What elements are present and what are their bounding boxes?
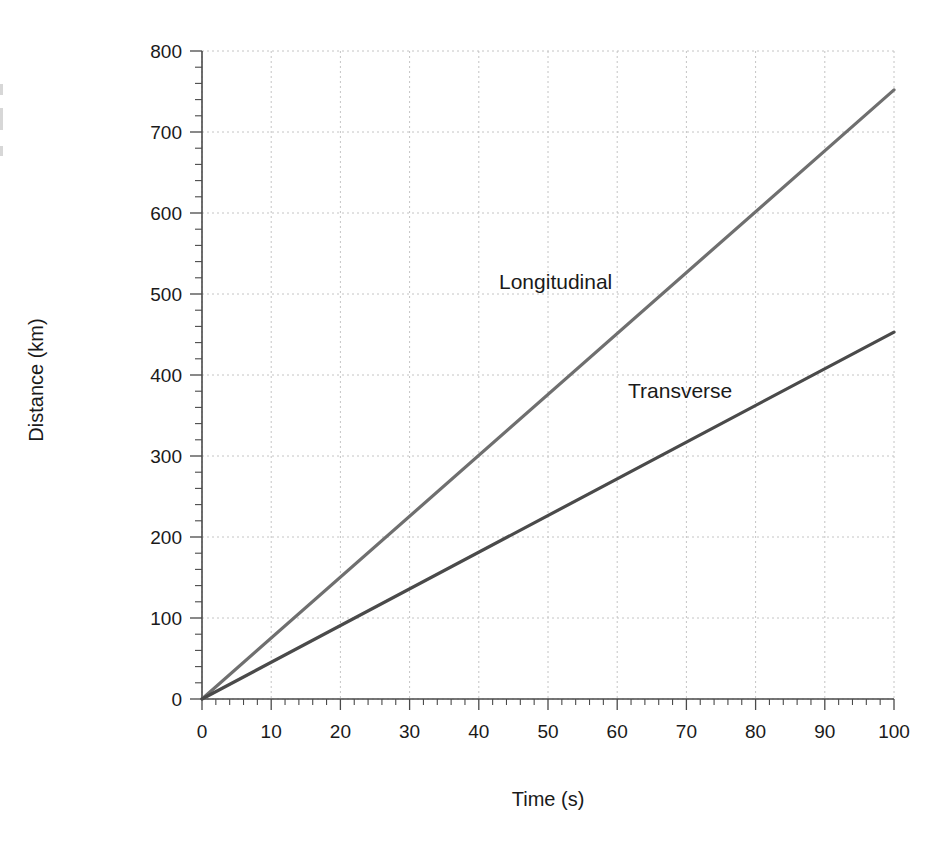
y-tick-label: 500 <box>120 285 182 304</box>
y-tick-label: 200 <box>120 528 182 547</box>
x-tick-label: 30 <box>399 722 420 741</box>
x-axis-title: Time (s) <box>512 789 585 809</box>
series-label-transverse: Transverse <box>628 380 732 401</box>
x-tick-label: 90 <box>814 722 835 741</box>
y-tick-label: 400 <box>120 366 182 385</box>
y-tick-label: 0 <box>120 690 182 709</box>
y-tick-label: 700 <box>120 123 182 142</box>
x-axis-major-ticks <box>202 699 894 710</box>
scan-artifact-speck <box>0 84 3 95</box>
x-tick-label: 10 <box>261 722 282 741</box>
y-tick-label: 100 <box>120 609 182 628</box>
x-tick-label: 60 <box>607 722 628 741</box>
scan-artifact-speck <box>0 108 3 130</box>
y-tick-label: 800 <box>120 42 182 61</box>
x-tick-label: 70 <box>676 722 697 741</box>
x-tick-label: 50 <box>537 722 558 741</box>
y-tick-label: 300 <box>120 447 182 466</box>
x-tick-label: 40 <box>468 722 489 741</box>
x-tick-label: 0 <box>197 722 208 741</box>
chart-figure: 0100200300400500600700800 01020304050607… <box>0 0 946 849</box>
x-tick-label: 20 <box>330 722 351 741</box>
x-tick-label: 100 <box>878 722 910 741</box>
series-label-longitudinal: Longitudinal <box>499 271 612 292</box>
scan-artifact-speck <box>0 146 3 156</box>
x-tick-label: 80 <box>745 722 766 741</box>
y-axis-title: Distance (km) <box>26 318 46 441</box>
y-tick-label: 600 <box>120 204 182 223</box>
